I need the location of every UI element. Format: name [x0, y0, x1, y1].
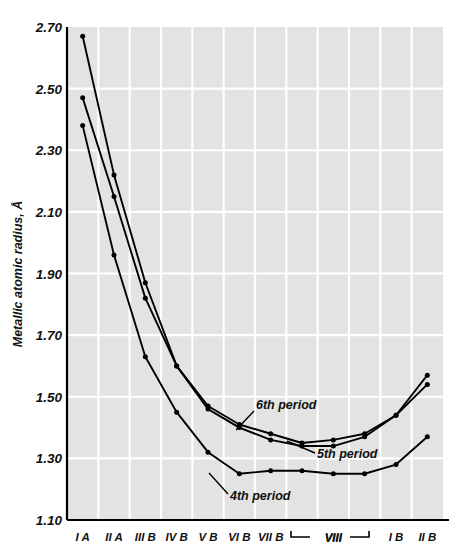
metallic-atomic-radius-chart: 2.702.502.302.101.901.701.501.301.10 I A… — [0, 0, 456, 558]
data-point — [425, 382, 430, 387]
x-tick-i-a: I A — [76, 531, 90, 543]
group-viii-bracket: VIII — [291, 531, 369, 544]
annotation-5th-period: 5th period — [317, 447, 378, 461]
x-tick-iv-b: IV B — [165, 531, 187, 543]
data-point — [112, 253, 117, 258]
y-tick-1.90: 1.90 — [36, 267, 63, 282]
y-tick-1.10: 1.10 — [36, 513, 63, 528]
data-point — [425, 434, 430, 439]
data-point — [268, 431, 273, 436]
data-point — [112, 172, 117, 177]
y-tick-1.50: 1.50 — [36, 390, 63, 405]
data-point — [237, 471, 242, 476]
x-tick-ii-b: II B — [418, 531, 436, 543]
data-point — [112, 194, 117, 199]
y-tick-2.50: 2.50 — [35, 82, 63, 97]
x-tick-vi-b: VI B — [228, 531, 250, 543]
y-tick-2.10: 2.10 — [35, 205, 63, 220]
data-point — [206, 450, 211, 455]
data-point — [268, 437, 273, 442]
annotation-6th-period: 6th period — [256, 398, 317, 412]
y-tick-1.30: 1.30 — [36, 451, 63, 466]
x-tick-v-b: V B — [198, 531, 217, 543]
data-point — [268, 468, 273, 473]
data-point — [300, 468, 305, 473]
data-point — [143, 280, 148, 285]
data-point — [174, 410, 179, 415]
data-point — [394, 413, 399, 418]
y-axis-title: Metallic atomic radius, Å — [11, 201, 25, 348]
data-point — [394, 462, 399, 467]
data-point — [174, 363, 179, 368]
x-tick-iii-b: III B — [135, 531, 156, 543]
data-point — [331, 437, 336, 442]
data-point — [80, 95, 85, 100]
annotation-4th-period: 4th period — [229, 489, 291, 503]
data-point — [143, 354, 148, 359]
data-point — [80, 34, 85, 39]
data-point — [362, 471, 367, 476]
data-point — [143, 296, 148, 301]
data-point — [206, 407, 211, 412]
y-axis-tick-labels: 2.702.502.302.101.901.701.501.301.10 — [35, 20, 67, 528]
data-point — [425, 373, 430, 378]
data-point — [362, 434, 367, 439]
data-point — [331, 471, 336, 476]
chart-canvas: 2.702.502.302.101.901.701.501.301.10 I A… — [0, 0, 456, 558]
x-tick-ii-a: II A — [105, 531, 122, 543]
x-tick-viii: VIII — [325, 532, 343, 544]
data-point — [80, 123, 85, 128]
y-axis-title-text: Metallic atomic radius, Å — [11, 201, 25, 348]
y-tick-2.70: 2.70 — [35, 20, 63, 35]
x-tick-i-b: I B — [389, 531, 404, 543]
y-tick-2.30: 2.30 — [35, 143, 63, 158]
x-axis-tick-labels: I AII AIII BIV BV BVI BVII BVIIII BII B — [76, 531, 437, 543]
y-tick-1.70: 1.70 — [36, 328, 63, 343]
x-tick-vii-b: VII B — [258, 531, 284, 543]
